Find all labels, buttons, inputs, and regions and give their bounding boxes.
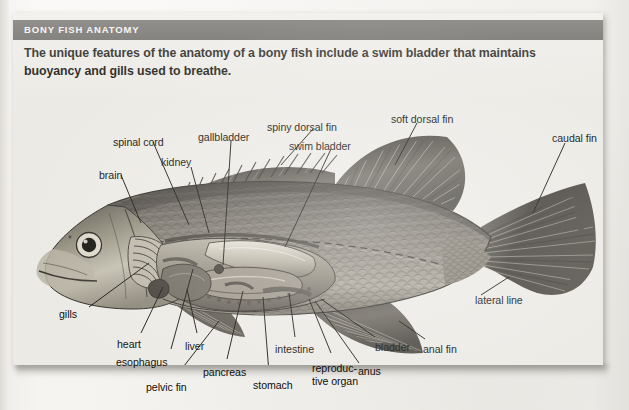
label-brain: brain xyxy=(99,169,122,181)
label-stomach: stomach xyxy=(253,379,293,391)
label-intestine: intestine xyxy=(275,343,314,355)
label-swim-bladder: swim bladder xyxy=(289,140,351,152)
label-heart: heart xyxy=(117,338,141,350)
label-soft-dorsal-fin: soft dorsal fin xyxy=(391,113,453,125)
fish-eye xyxy=(77,233,102,258)
page-title: BONY FISH ANATOMY xyxy=(24,24,139,35)
label-kidney: kidney xyxy=(161,156,191,168)
leader-lateral-line xyxy=(481,277,509,295)
label-caudal-fin: caudal fin xyxy=(552,132,597,144)
figure-panel: BONY FISH ANATOMY The unique features of… xyxy=(13,13,603,365)
label-gallbladder: gallbladder xyxy=(198,131,249,143)
page-fold-shadow xyxy=(0,0,9,410)
label-bladder: bladder xyxy=(375,341,410,353)
gallbladder-organ xyxy=(214,264,223,273)
label-lateral-line: lateral line xyxy=(475,294,523,306)
label-anal-fin: anal fin xyxy=(423,343,457,355)
label-gills: gills xyxy=(59,308,77,320)
label-liver: liver xyxy=(185,340,204,352)
label-reproductive-organ: reproduc- tive organ xyxy=(312,362,372,387)
label-esophagus: esophagus xyxy=(116,356,167,368)
caudal-fin-shape xyxy=(481,183,596,295)
label-spinal-cord: spinal cord xyxy=(113,136,164,148)
label-pelvic-fin: pelvic fin xyxy=(146,381,187,393)
intro-paragraph: The unique features of the anatomy of a … xyxy=(24,45,579,80)
label-spiny-dorsal-fin: spiny dorsal fin xyxy=(267,121,337,133)
label-pancreas: pancreas xyxy=(203,366,246,378)
